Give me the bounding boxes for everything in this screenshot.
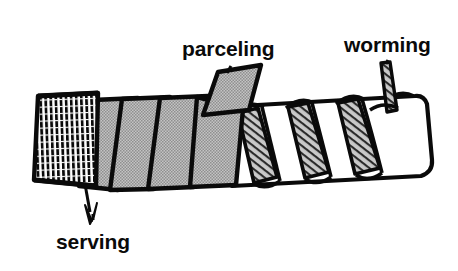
serving-top-edge (38, 93, 98, 96)
rope-assembly: parceling worming serving (34, 33, 432, 253)
leader-worming (386, 60, 388, 64)
serving-section (34, 93, 98, 186)
label-parceling: parceling (182, 37, 274, 60)
serving-tail (85, 184, 97, 224)
serving-tail-fray (85, 203, 97, 224)
serving-shape (34, 93, 98, 186)
rope-diagram: parceling worming serving (0, 0, 458, 271)
worming-strands (238, 99, 380, 183)
label-worming: worming (343, 33, 431, 56)
label-serving: serving (56, 230, 130, 253)
diagram-canvas: parceling worming serving (0, 0, 458, 271)
